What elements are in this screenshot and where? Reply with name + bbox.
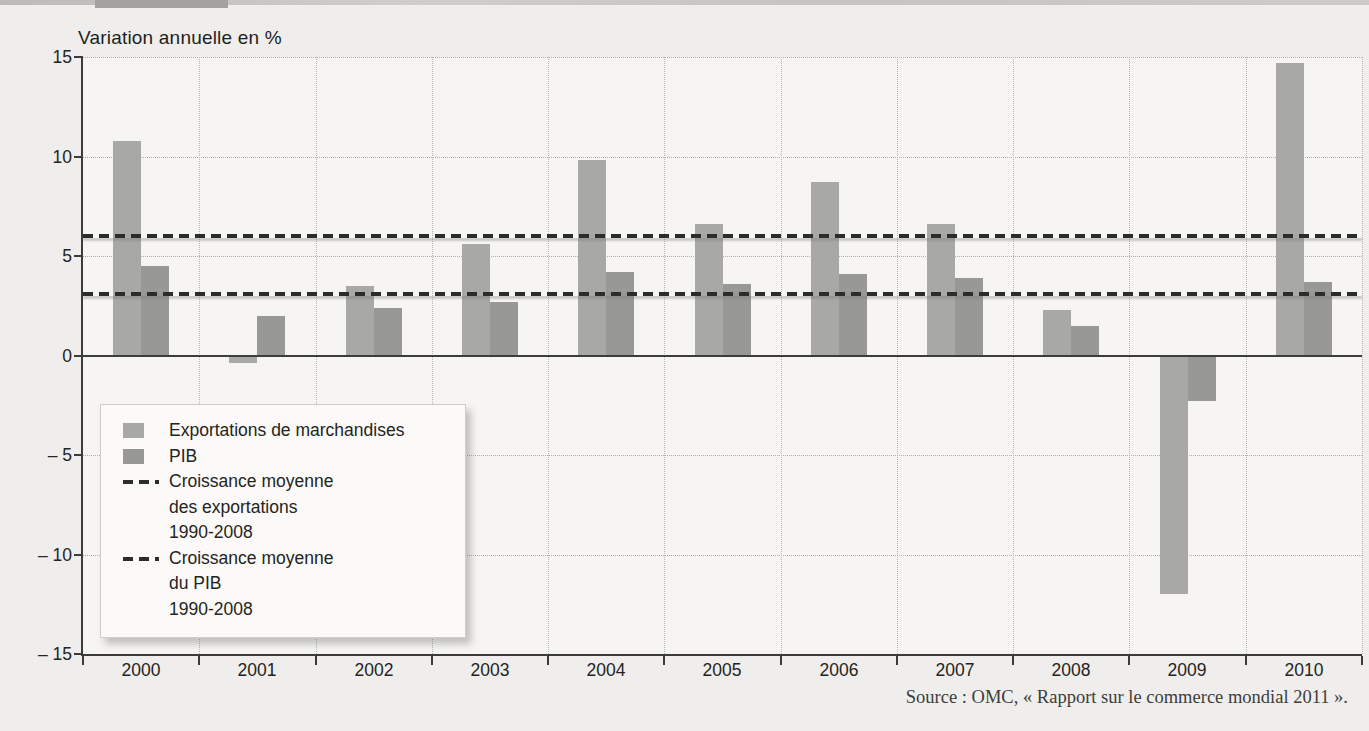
- v-gridline-11: [1362, 57, 1363, 654]
- bar-exports-2010: [1276, 63, 1304, 356]
- legend-item-avg-pib: Croissance moyenne du PIB 1990-2008: [123, 546, 449, 623]
- y-axis-label-10: 10: [0, 145, 72, 169]
- h-gridline-10: [83, 157, 1362, 158]
- legend-swatch-pib: [123, 449, 144, 464]
- legend-avg-exports-line2: des exportations: [169, 495, 333, 521]
- x-axis-label-2001: 2001: [199, 660, 315, 681]
- x-axis-labels: 2000200120022003200420052006200720082009…: [83, 660, 1362, 684]
- bar-exports-2007: [927, 224, 955, 355]
- y-tick--5: [74, 454, 83, 456]
- avg-pib-dash-sample: [123, 557, 159, 561]
- y-tick-0: [74, 355, 83, 357]
- legend-avg-pib-line1: Croissance moyenne: [169, 546, 333, 572]
- x-axis-label-2004: 2004: [548, 660, 664, 681]
- legend-item-exports: Exportations de marchandises: [123, 418, 449, 444]
- bar-pib-2009: [1188, 356, 1216, 402]
- y-tick-5: [74, 255, 83, 257]
- x-axis-label-2002: 2002: [316, 660, 432, 681]
- legend-marker-col: [123, 546, 169, 561]
- y-axis-label--5: – 5: [0, 443, 72, 467]
- bar-pib-2000: [141, 266, 169, 356]
- x-axis-label-2000: 2000: [83, 660, 199, 681]
- legend-avg-exports-line1: Croissance moyenne: [169, 469, 333, 495]
- bar-exports-2000: [113, 141, 141, 356]
- y-axis-label-15: 15: [0, 45, 72, 69]
- legend-label-pib: PIB: [169, 444, 197, 470]
- y-axis-label-0: 0: [0, 344, 72, 368]
- avg-line-exports: [83, 234, 1362, 238]
- legend-avg-pib-line3: 1990-2008: [169, 597, 333, 623]
- bar-exports-2006: [811, 182, 839, 355]
- bar-exports-2001: [229, 356, 257, 364]
- legend-item-avg-exports: Croissance moyenne des exportations 1990…: [123, 469, 449, 546]
- legend-marker-col: [123, 444, 169, 464]
- avg-exports-dash-sample: [123, 480, 159, 484]
- legend-marker-col: [123, 469, 169, 484]
- legend-avg-pib-line2: du PIB: [169, 571, 333, 597]
- bar-exports-2004: [578, 160, 606, 355]
- bar-exports-2003: [462, 244, 490, 355]
- y-axis-label--15: – 15: [0, 642, 72, 666]
- bar-pib-2008: [1071, 326, 1099, 356]
- h-gridline-15: [83, 57, 1362, 58]
- chart-page: Variation annuelle en % 151050– 5– 10– 1…: [0, 0, 1369, 731]
- chart-title: Variation annuelle en %: [78, 27, 282, 49]
- bar-exports-2002: [346, 286, 374, 356]
- x-axis-label-2005: 2005: [664, 660, 780, 681]
- bar-pib-2004: [606, 272, 634, 356]
- x-axis-label-2003: 2003: [432, 660, 548, 681]
- legend-label-avg-exports: Croissance moyenne des exportations 1990…: [169, 469, 333, 546]
- legend: Exportations de marchandises PIB Croissa…: [100, 404, 466, 638]
- bar-pib-2001: [257, 316, 285, 356]
- x-axis-label-2010: 2010: [1246, 660, 1362, 681]
- bar-pib-2006: [839, 274, 867, 356]
- y-axis-label--10: – 10: [0, 543, 72, 567]
- x-axis-label-2006: 2006: [781, 660, 897, 681]
- legend-swatch-exports: [123, 423, 144, 438]
- bar-exports-2008: [1043, 310, 1071, 356]
- y-tick-10: [74, 156, 83, 158]
- y-axis-labels: 151050– 5– 10– 15: [0, 57, 72, 654]
- legend-marker-col: [123, 418, 169, 438]
- legend-avg-exports-line3: 1990-2008: [169, 520, 333, 546]
- y-tick-15: [74, 56, 83, 58]
- legend-item-pib: PIB: [123, 444, 449, 470]
- y-tick--15: [74, 653, 83, 655]
- legend-label-exports: Exportations de marchandises: [169, 418, 404, 444]
- bar-pib-2002: [374, 308, 402, 356]
- zero-line: [83, 355, 1362, 357]
- legend-label-avg-pib: Croissance moyenne du PIB 1990-2008: [169, 546, 333, 623]
- bar-exports-2005: [695, 224, 723, 355]
- y-axis-label-5: 5: [0, 244, 72, 268]
- scan-artifact-blob: [95, 0, 228, 8]
- y-tick--10: [74, 554, 83, 556]
- x-axis-label-2009: 2009: [1129, 660, 1245, 681]
- bar-exports-2009: [1160, 356, 1188, 595]
- bar-pib-2003: [490, 302, 518, 356]
- x-axis-label-2007: 2007: [897, 660, 1013, 681]
- source-caption: Source : OMC, « Rapport sur le commerce …: [906, 687, 1348, 708]
- x-axis-label-2008: 2008: [1013, 660, 1129, 681]
- avg-line-pib: [83, 292, 1362, 296]
- bar-pib-2007: [955, 278, 983, 356]
